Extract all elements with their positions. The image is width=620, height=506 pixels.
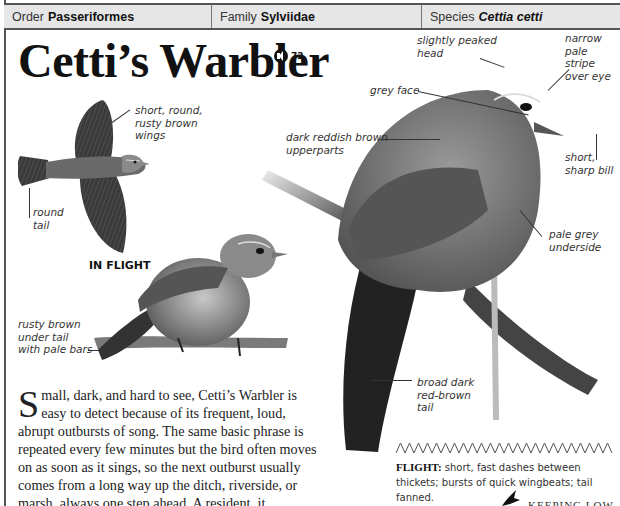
label-upperparts: dark reddish brown upperparts [286,131,388,156]
label-flight-wings: short, round, rusty brown wings [135,104,203,142]
label-underside: pale grey underside [549,228,601,253]
taxonomy-header: Order Passeriformes Family Sylviidae Spe… [4,3,620,30]
order-cell: Order Passeriformes [4,5,212,28]
label-tail: broad dark red-brown tail [417,376,474,414]
species-label: Species [430,10,474,24]
order-label: Order [12,10,44,24]
species-description: Small, dark, and hard to see, Cetti’s Wa… [18,386,318,506]
leader-line [29,188,30,218]
flight-label: FLIGHT: [396,461,442,473]
sidebar-heading: KEEPING LOW [528,499,614,506]
family-label: Family [220,10,257,24]
order-value: Passeriformes [48,10,134,24]
drop-cap: S [18,388,39,420]
bird-silhouette-icon [500,490,520,506]
page-left-border [4,0,6,506]
label-bill: short, sharp bill [565,151,613,176]
zigzag-flight-pattern-icon [396,442,616,454]
leader-line [88,350,102,351]
label-head: slightly peaked head [417,34,497,59]
label-eye-stripe: narrow pale stripe over eye [565,32,620,82]
label-under-tail: rusty brown under tail with pale bars [18,318,92,356]
leader-line [380,139,440,140]
description-text: mall, dark, and hard to see, Cetti’s War… [18,387,317,506]
label-flight-tail: round tail [33,206,64,231]
label-grey-face: grey face [370,84,419,97]
family-value: Sylviidae [261,10,315,24]
family-cell: Family Sylviidae [212,5,422,28]
species-value: Cettia cetti [478,10,542,24]
leader-line [372,380,412,381]
species-cell: Species Cettia cetti [422,5,620,28]
